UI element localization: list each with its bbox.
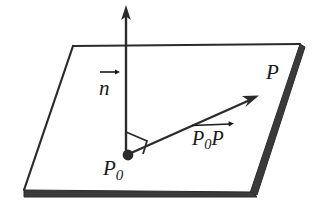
figure-container: n P0 P P0P	[0, 0, 315, 215]
point-p-label: P	[266, 62, 279, 83]
normal-vector-label: n	[99, 78, 110, 99]
point-p0-label-base: P	[103, 156, 116, 180]
displacement-vector-label-head: P	[211, 127, 223, 149]
point-p0-marker	[123, 150, 134, 161]
displacement-vector-label: P0P	[192, 128, 224, 152]
point-p0-label-subscript: 0	[116, 167, 124, 183]
displacement-vector-label-base: P	[192, 127, 204, 149]
plane-diagram-svg	[0, 0, 315, 215]
point-p0-label: P0	[103, 158, 123, 183]
